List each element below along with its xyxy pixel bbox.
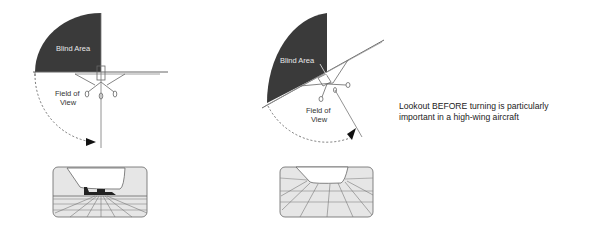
left-pilot-view [53,167,147,217]
left-top-view: Blind Area Field of View [33,13,168,148]
right-blind-area-label: Blind Area [280,56,315,65]
left-blind-area-label: Blind Area [56,44,91,53]
left-arrowhead-icon [86,138,96,146]
right-fov-label-1: Field of [306,106,332,115]
left-blind-area [35,13,101,72]
caption-line-2: important in a high-wing aircraft [399,112,599,123]
left-fov-label-1: Field of [55,89,81,98]
right-top-view: Blind Area Field of View [262,13,384,142]
caption-line-1: Lookout BEFORE turning is particularly [399,101,599,112]
right-pilot-view [280,167,373,217]
right-arrowhead-icon [347,128,356,140]
left-fov-label-2: View [60,98,77,107]
left-field-of-view-arc [35,74,92,142]
caption: Lookout BEFORE turning is particularly i… [399,101,599,123]
right-fov-label-2: View [311,115,328,124]
